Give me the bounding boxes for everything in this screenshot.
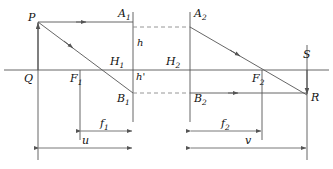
diagram-canvas	[0, 0, 333, 169]
label-v: v	[245, 135, 251, 146]
label-B2: B2	[194, 93, 207, 107]
label-S: S	[303, 49, 311, 60]
label-f2: f2	[221, 118, 230, 132]
label-B1: B1	[117, 93, 130, 107]
ray-parallel-refracted-arrowhead	[230, 50, 240, 56]
label-h-prime: h'	[136, 72, 145, 82]
label-F1: F1	[70, 73, 82, 87]
label-f1: f1	[100, 118, 109, 132]
label-P: P	[28, 12, 35, 23]
label-H2: H2	[166, 56, 180, 70]
ray-parallel-refracted	[190, 27, 307, 95]
label-u: u	[82, 135, 89, 146]
label-H1: H1	[110, 56, 124, 70]
label-h: h	[137, 38, 143, 48]
label-R: R	[311, 92, 319, 103]
ray-diagram-figure: P Q F1 F2 A1 A2 B1 B2 H1 H2 h h' S R f1 …	[0, 0, 333, 169]
label-F2: F2	[252, 73, 264, 87]
label-A2: A2	[194, 8, 207, 22]
label-A1: A1	[118, 8, 131, 22]
label-Q: Q	[24, 73, 33, 84]
ray-through-focus-arrowhead	[64, 41, 73, 48]
